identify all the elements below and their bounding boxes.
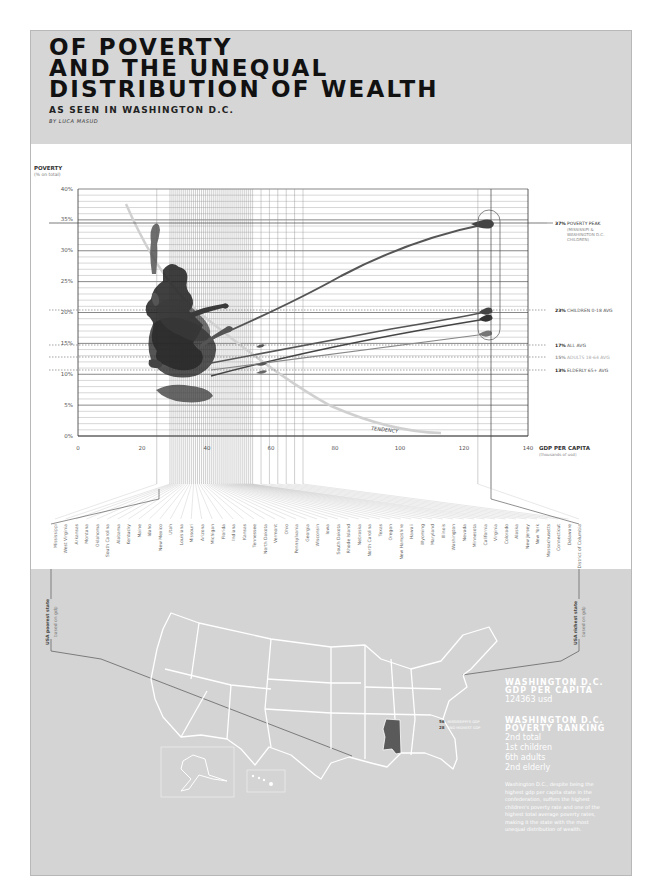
x-tick: 40 bbox=[204, 445, 211, 451]
reference-lines bbox=[49, 310, 547, 370]
adults-avg-bold: 15% bbox=[555, 355, 566, 360]
rank-children: 1st children bbox=[505, 743, 605, 753]
all-avg-label: ALL AVG bbox=[567, 343, 586, 348]
x-tick: 120 bbox=[459, 445, 470, 451]
richest-pointer bbox=[462, 651, 579, 675]
richest-state-sublabel: based on gdp bbox=[581, 606, 586, 637]
all-avg-bold: 17% bbox=[555, 343, 566, 348]
y-tick: 5% bbox=[64, 402, 73, 408]
gdp-heading-2: GDP PER CAPITA bbox=[505, 687, 605, 695]
mississippi-highlight bbox=[383, 719, 401, 754]
adults-avg-label: ADULTS 18-64 AVG bbox=[567, 355, 610, 360]
elderly-avg-bold: 13% bbox=[555, 368, 566, 373]
poorest-state-label: USA poorest state bbox=[45, 599, 50, 645]
rank-adults: 6th adults bbox=[505, 753, 605, 763]
y-axis-title: POVERTY bbox=[34, 165, 63, 171]
children-avg-bold: 23% bbox=[555, 308, 566, 313]
y-tick: 0% bbox=[64, 433, 73, 439]
poverty-gdp-chart: POVERTY (% on total) 0% 5% 10% 15% 20% 2… bbox=[31, 144, 632, 569]
x-tick: 100 bbox=[395, 445, 406, 451]
trail-elderly bbox=[211, 334, 486, 370]
y-tick: 30% bbox=[61, 247, 73, 253]
rank-elderly: 2nd elderly bbox=[505, 763, 605, 773]
y-tick-labels: 0% 5% 10% 15% 20% 25% 30% 35% 40% bbox=[61, 186, 73, 439]
elderly-avg-label: ELDERLY 65+ AVG bbox=[567, 368, 609, 373]
x-tick-labels: 0 20 40 60 80 100 120 140 bbox=[76, 445, 533, 451]
y-tick: 35% bbox=[61, 216, 73, 222]
byline: BY LUCA MASUD bbox=[49, 118, 98, 124]
poorest-bracket-line bbox=[51, 489, 159, 524]
rank-total: 2nd total bbox=[505, 733, 605, 743]
x-tick: 80 bbox=[332, 445, 339, 451]
children-avg-label: CHILDREN 0-18 AVG bbox=[567, 308, 613, 313]
x-tick: 60 bbox=[268, 445, 275, 451]
peak-label: 37% bbox=[555, 221, 566, 226]
y-tick: 10% bbox=[61, 371, 73, 377]
trail-adults bbox=[211, 319, 486, 376]
page-title: OF POVERTY AND THE UNEQUAL DISTRIBUTION … bbox=[49, 37, 439, 100]
dc-info-panel: WASHINGTON D.C. GDP PER CAPITA 124363 us… bbox=[505, 679, 605, 834]
dc-description: Washington D.C., despite being the highe… bbox=[505, 781, 601, 834]
y-tick: 25% bbox=[61, 278, 73, 284]
infographic-page: OF POVERTY AND THE UNEQUAL DISTRIBUTION … bbox=[30, 30, 632, 876]
x-axis-title: GDP PER CAPITA bbox=[539, 445, 591, 451]
alaska-shape bbox=[181, 755, 227, 791]
peak-note: CHILDREN) bbox=[567, 237, 590, 242]
trail-all bbox=[206, 312, 486, 364]
x-axis-subtitle: (thousands of usd) bbox=[539, 452, 577, 457]
poorest-state-sublabel: based on gdp bbox=[53, 606, 58, 637]
poorest-pointer bbox=[51, 651, 352, 756]
gdp-legend: 56MISSISSIPPI'S GDP 282ND HIGHEST GDP bbox=[439, 719, 480, 731]
hawaii-shape bbox=[252, 775, 273, 786]
richest-state-label: USA richest state bbox=[573, 601, 578, 645]
y-axis-subtitle: (% on total) bbox=[34, 172, 61, 177]
subtitle: AS SEEN IN WASHINGTON D.C. bbox=[49, 105, 234, 115]
y-tick: 40% bbox=[61, 186, 73, 192]
peak-label-text: POVERTY PEAK bbox=[567, 221, 601, 226]
gdp-value: 124363 usd bbox=[505, 695, 605, 705]
title-line-3: DISTRIBUTION OF WEALTH bbox=[49, 79, 439, 100]
alaska-inset bbox=[161, 747, 234, 797]
x-tick: 20 bbox=[139, 445, 146, 451]
reference-labels: 37% POVERTY PEAK (MISSISSIPI & WASHINGTO… bbox=[547, 221, 613, 373]
x-tick: 0 bbox=[76, 445, 80, 451]
legend-row: 282ND HIGHEST GDP bbox=[439, 725, 480, 731]
usa-contiguous bbox=[151, 613, 497, 779]
rank-heading-2: POVERTY RANKING bbox=[505, 725, 605, 733]
x-tick: 140 bbox=[523, 445, 534, 451]
hawaii-inset bbox=[247, 770, 285, 792]
